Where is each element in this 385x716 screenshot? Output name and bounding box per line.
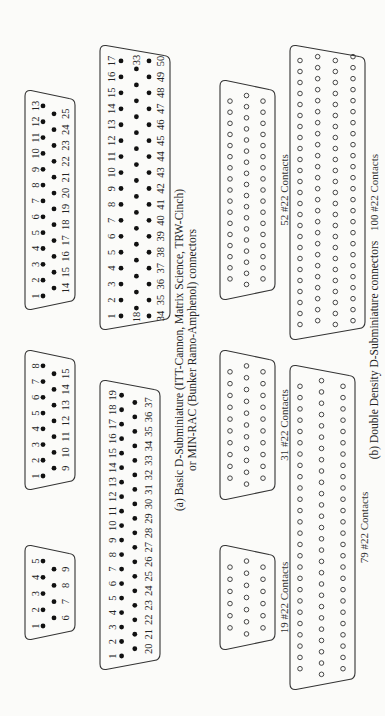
- pin-number: 11: [106, 152, 117, 162]
- connector-dd-79-shell: [290, 365, 355, 689]
- contact: [298, 311, 303, 316]
- contact: [298, 553, 303, 558]
- contact: [228, 210, 233, 215]
- contact: [261, 154, 266, 159]
- pin: [41, 624, 46, 629]
- contact: [244, 115, 249, 120]
- contact: [261, 429, 266, 434]
- pin: [119, 625, 124, 630]
- connector-dd-31: 31 #22 Contacts: [220, 350, 290, 499]
- contact: [351, 142, 356, 147]
- pin: [41, 135, 46, 140]
- pin: [119, 75, 124, 80]
- pin: [147, 218, 152, 223]
- contact: [261, 132, 266, 137]
- contact: [319, 536, 324, 541]
- pin-number: 50: [155, 56, 166, 67]
- pin-number: 1: [30, 623, 41, 628]
- contact: [298, 407, 303, 412]
- contact: [298, 212, 303, 217]
- contact: [315, 186, 320, 191]
- pin-number: 12: [60, 416, 71, 427]
- pin: [41, 104, 46, 109]
- pin-number: 34: [155, 310, 166, 321]
- contact: [319, 378, 324, 383]
- pin-number: 2: [30, 458, 41, 463]
- pin: [132, 545, 137, 550]
- contact: [244, 215, 249, 220]
- contact: [341, 429, 346, 434]
- contact: [244, 138, 249, 143]
- pin-number: 27: [143, 542, 154, 553]
- pin: [41, 474, 46, 479]
- contact: [261, 99, 266, 104]
- pin-number: 15: [107, 448, 118, 459]
- contact: [298, 234, 303, 239]
- pin: [52, 127, 57, 132]
- contact: [319, 548, 324, 553]
- pin: [134, 178, 139, 183]
- contact: [261, 613, 266, 618]
- contact: [261, 452, 266, 457]
- pin: [52, 583, 57, 588]
- contact: [244, 249, 249, 254]
- pin-number: 34: [143, 440, 154, 451]
- pin: [119, 581, 124, 586]
- pin: [132, 603, 137, 608]
- contact: [244, 104, 249, 109]
- pin: [132, 588, 137, 593]
- pin-number: 8: [30, 182, 41, 187]
- contact: [333, 212, 338, 217]
- contact: [298, 300, 303, 305]
- contact: [333, 157, 338, 162]
- connector-da-15: 123456789101112131415: [25, 350, 75, 489]
- contact: [228, 381, 233, 386]
- pin: [52, 387, 57, 392]
- pin: [41, 442, 46, 447]
- contact: [333, 179, 338, 184]
- contact: [351, 252, 356, 257]
- pin: [132, 473, 137, 478]
- pin: [134, 258, 139, 263]
- connector-dd-100: 100 #22 Contacts: [290, 45, 380, 339]
- pin: [52, 567, 57, 572]
- contact: [298, 666, 303, 671]
- pin: [41, 278, 46, 283]
- pin: [134, 67, 139, 72]
- pin-number: 8: [106, 202, 117, 207]
- contact: [244, 559, 249, 564]
- pin-number: 3: [30, 262, 41, 267]
- contact: [351, 241, 356, 246]
- pin-number: 25: [60, 109, 71, 120]
- pin: [132, 415, 137, 420]
- connector-dd-52: 52 #22 Contacts: [220, 80, 290, 299]
- contact: [298, 520, 303, 525]
- pin-number: 46: [155, 119, 166, 130]
- contact: [244, 387, 249, 392]
- pin-number: 23: [143, 600, 154, 611]
- contact: [228, 132, 233, 137]
- pin: [52, 403, 57, 408]
- pin: [119, 523, 124, 528]
- pin-number: 48: [155, 88, 166, 99]
- pin-number: 10: [30, 148, 41, 159]
- contacts-label: 19 #22 Contacts: [278, 562, 290, 634]
- pin: [119, 567, 124, 572]
- contact: [351, 131, 356, 136]
- pin-number: 24: [60, 124, 71, 135]
- pin-number: 5: [30, 230, 41, 235]
- contact: [298, 278, 303, 283]
- contact: [298, 58, 303, 63]
- pin: [119, 552, 124, 557]
- contact: [261, 589, 266, 594]
- contact: [333, 267, 338, 272]
- contact: [319, 525, 324, 530]
- pin-number: 9: [30, 167, 41, 172]
- contact: [333, 289, 338, 294]
- contact: [351, 285, 356, 290]
- contact: [341, 497, 346, 502]
- contact: [341, 587, 346, 592]
- contact: [244, 238, 249, 243]
- pin-number: 20: [60, 188, 71, 199]
- contact: [333, 278, 338, 283]
